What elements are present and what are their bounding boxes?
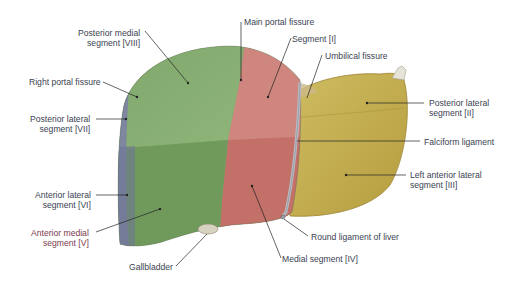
label-line: Left anterior lateral xyxy=(410,170,482,180)
label-line: Umbilical fissure xyxy=(325,51,388,61)
label-line: Posterior lateral xyxy=(30,114,90,124)
label-right-portal-fissure: Right portal fissure xyxy=(29,77,101,87)
label-line: segment [V] xyxy=(31,238,89,248)
label-left-anterior-lateral-segment: Left anterior lateral segment [III] xyxy=(410,170,482,190)
label-line: segment [VIII] xyxy=(78,38,140,48)
label-line: segment [II] xyxy=(429,108,489,118)
label-line: Segment [I] xyxy=(292,34,336,44)
label-line: Medial segment [IV] xyxy=(282,254,358,264)
label-line: segment [VII] xyxy=(30,124,90,134)
gallbladder-shape xyxy=(198,224,218,234)
label-posterior-lateral-segment-vii: Posterior lateral segment [VII] xyxy=(30,114,90,134)
label-round-ligament: Round ligament of liver xyxy=(311,232,399,242)
label-line: Falciform ligament xyxy=(424,137,494,147)
label-umbilical-fissure: Umbilical fissure xyxy=(325,51,388,61)
label-line: segment [III] xyxy=(410,180,482,190)
label-posterior-medial-segment: Posterior medial segment [VIII] xyxy=(78,28,140,48)
label-line: segment [VI] xyxy=(35,200,91,210)
label-line: Gallbladder xyxy=(129,262,173,272)
label-line: Anterior lateral xyxy=(35,190,91,200)
label-line: Right portal fissure xyxy=(29,77,101,87)
label-anterior-medial-segment: Anterior medial segment [V] xyxy=(31,228,89,248)
liver-segments-diagram: Posterior medial segment [VIII] Right po… xyxy=(0,0,516,287)
label-anterior-lateral-segment: Anterior lateral segment [VI] xyxy=(35,190,91,210)
label-medial-segment: Medial segment [IV] xyxy=(282,254,358,264)
label-line: Anterior medial xyxy=(31,228,89,238)
label-line: Main portal fissure xyxy=(244,17,314,27)
label-segment-i: Segment [I] xyxy=(292,34,336,44)
label-main-portal-fissure: Main portal fissure xyxy=(244,17,314,27)
label-posterior-lateral-segment-ii: Posterior lateral segment [II] xyxy=(429,98,489,118)
label-gallbladder: Gallbladder xyxy=(129,262,173,272)
label-line: Posterior lateral xyxy=(429,98,489,108)
label-falciform-ligament: Falciform ligament xyxy=(424,137,494,147)
label-line: Round ligament of liver xyxy=(311,232,399,242)
label-line: Posterior medial xyxy=(78,28,140,38)
